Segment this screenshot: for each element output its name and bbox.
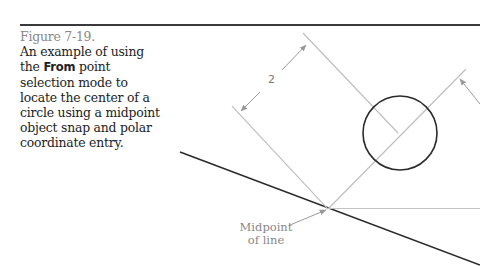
polar-angle-line — [328, 69, 466, 209]
dimension-line-upper — [282, 45, 306, 70]
extension-line-center — [303, 33, 398, 133]
circle — [363, 96, 437, 170]
callout-leader — [290, 210, 326, 225]
right-dimension-line — [460, 79, 480, 104]
extension-line-midpoint — [232, 106, 328, 209]
midpoint-callout: Midpoint of line — [238, 221, 294, 247]
dimension-line-lower — [241, 92, 260, 111]
callout-line-2: of line — [238, 234, 294, 247]
dimension-value: 2 — [268, 73, 275, 86]
